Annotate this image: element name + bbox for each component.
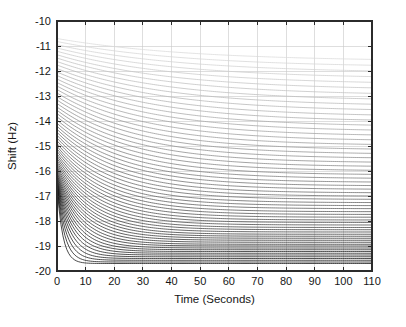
x-tick-label: 10 <box>80 275 92 287</box>
x-tick-label: 60 <box>223 275 235 287</box>
y-tick-label: -19 <box>35 240 51 252</box>
y-tick-label: -15 <box>35 140 51 152</box>
x-tick-label: 0 <box>54 275 60 287</box>
x-tick-label: 110 <box>363 275 381 287</box>
x-tick-label: 80 <box>280 275 292 287</box>
x-tick-label: 40 <box>165 275 177 287</box>
x-tick-label: 30 <box>137 275 149 287</box>
y-tick-label: -17 <box>35 190 51 202</box>
figure-container: 0102030405060708090100110 -20-19-18-17-1… <box>0 0 406 327</box>
y-tick-label: -13 <box>35 90 51 102</box>
x-tick-label: 50 <box>194 275 206 287</box>
y-tick-label: -14 <box>35 115 51 127</box>
x-tick-label: 20 <box>108 275 120 287</box>
x-axis-title: Time (Seconds) <box>174 293 255 305</box>
y-tick-label: -11 <box>36 40 51 52</box>
x-tick-label: 100 <box>334 275 352 287</box>
y-tick-label: -16 <box>35 165 51 177</box>
x-tick-label: 90 <box>309 275 321 287</box>
y-tick-label: -10 <box>35 15 51 27</box>
y-axis-title: Shift (Hz) <box>6 122 18 170</box>
x-tick-label: 70 <box>251 275 263 287</box>
y-tick-label: -12 <box>35 65 51 77</box>
y-tick-label: -20 <box>35 265 51 277</box>
y-tick-label: -18 <box>35 215 51 227</box>
chart-canvas: 0102030405060708090100110 -20-19-18-17-1… <box>0 0 406 327</box>
